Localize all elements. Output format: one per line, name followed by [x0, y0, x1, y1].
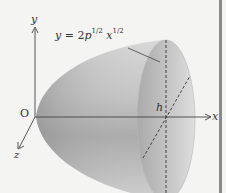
- equation-label: y = 2p1/2 x1/2: [55, 30, 124, 41]
- y-axis-label: y: [31, 14, 37, 25]
- equation-lhs: y: [55, 29, 61, 42]
- z-axis: [18, 117, 35, 149]
- x-axis-label: x: [212, 111, 218, 122]
- equation-p-exponent: 1/2: [91, 27, 102, 35]
- height-label: h: [156, 102, 163, 113]
- z-axis-label: z: [14, 150, 19, 160]
- origin-label: O: [20, 108, 29, 119]
- equation-equals: =: [65, 29, 74, 42]
- equation-x-exponent: 1/2: [112, 27, 123, 35]
- y-axis: [32, 27, 38, 117]
- right-edge-bar: [219, 0, 222, 193]
- paraboloid-diagram: y x z O h y = 2p1/2 x1/2: [0, 0, 226, 193]
